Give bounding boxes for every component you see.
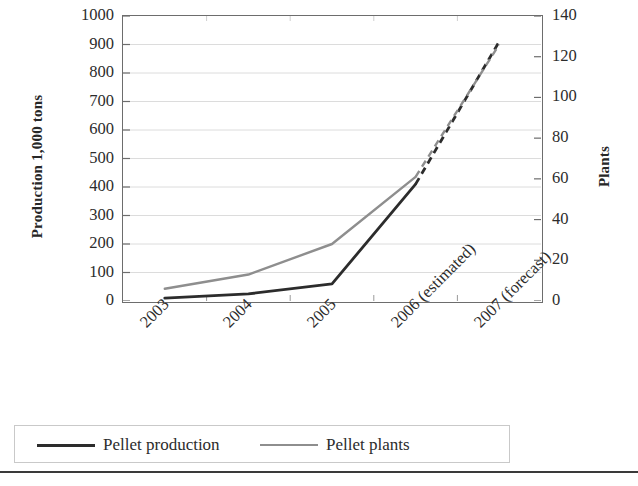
series-line-dashed [416, 45, 500, 177]
y-tick-left: 400 [89, 178, 114, 195]
y-tick-right: 60 [552, 170, 569, 187]
series-line-solid [165, 177, 416, 289]
y-tick-right: 100 [552, 88, 577, 105]
legend-label: Pellet plants [326, 435, 410, 455]
legend-item-pellet-production[interactable]: Pellet production [37, 426, 220, 464]
chart-figure: Production 1,000 tons Plants 1000 900 80… [0, 0, 638, 486]
y-tick-right: 120 [552, 48, 577, 65]
plot-canvas [123, 16, 541, 301]
series-line-solid [165, 184, 416, 298]
legend-item-pellet-plants[interactable]: Pellet plants [260, 426, 410, 464]
chart-legend: Pellet production Pellet plants [14, 425, 510, 463]
y-tick-right: 0 [552, 292, 560, 309]
legend-swatch-line-icon [37, 444, 95, 447]
y-tick-left: 0 [106, 292, 114, 309]
y-axis-ticks-right: 140 120 100 80 60 40 20 0 [552, 0, 602, 320]
series-2 [165, 45, 499, 289]
legend-label: Pellet production [103, 435, 220, 455]
y-tick-left: 600 [89, 121, 114, 138]
y-tick-right: 20 [552, 251, 569, 268]
y-axis-label-left: Production 1,000 tons [29, 67, 46, 267]
legend-swatch-line-icon [260, 444, 318, 446]
y-tick-right: 140 [552, 7, 577, 24]
y-tick-left: 700 [89, 93, 114, 110]
plot-area [122, 15, 543, 303]
y-axis-ticks-left: 1000 900 800 700 600 500 400 300 200 100… [62, 0, 114, 320]
y-tick-left: 200 [89, 235, 114, 252]
y-tick-left: 500 [89, 150, 114, 167]
y-tick-right: 40 [552, 211, 569, 228]
y-tick-left: 900 [89, 36, 114, 53]
y-tick-right: 80 [552, 129, 569, 146]
y-tick-left: 1000 [81, 7, 114, 24]
y-tick-left: 300 [89, 207, 114, 224]
y-tick-left: 100 [89, 264, 114, 281]
footer-rule [0, 471, 638, 473]
y-tick-left: 800 [89, 64, 114, 81]
